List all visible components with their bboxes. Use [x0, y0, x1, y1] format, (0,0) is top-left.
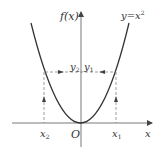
function-label: y=x2	[120, 9, 145, 21]
y2-label: y2	[69, 61, 80, 73]
arrow-left-to-y-icon	[58, 70, 64, 74]
arrow-up-x1-icon	[114, 96, 118, 102]
arrow-right-to-y-icon	[99, 70, 105, 74]
x-axis-label: x	[145, 128, 151, 139]
arrow-up-x2-icon	[42, 96, 46, 102]
parabola-diagram: f(x) y=x2 y2 y1 x2 O x1 x	[0, 0, 162, 159]
y-axis-label: f(x)	[59, 10, 79, 23]
x2-label: x2	[40, 128, 50, 140]
origin-label: O	[71, 128, 80, 141]
parabola-curve	[31, 23, 129, 123]
y1-label: y1	[83, 61, 93, 73]
x1-label: x1	[112, 128, 121, 140]
